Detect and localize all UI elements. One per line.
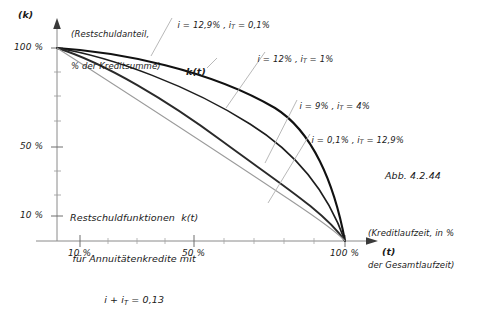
note-line-3: i + iT = 0,13 [70,293,198,308]
note-line-1: Restschuldfunktionen k(t) [70,211,198,225]
leader-line-curve-label [207,58,217,68]
series-3-label-i: i = 0,1% [312,135,349,145]
series-2-label-i: i = 9% [300,101,329,111]
series-3-label-it-val: = 12,9% [364,135,404,145]
y-tick-label-50: 50 % [20,141,43,152]
note-line-3-prefix: i + i [104,294,124,305]
note-line-2: für Annuitätenkredite mit [70,252,198,266]
series-0-label-i: i = 12,9% [178,20,221,30]
series-1-label-i: i = 12% [258,54,292,64]
series-0-label-it-val: = 0,1% [235,20,270,30]
y-tick-label-100: 100 % [14,42,43,53]
series-2-separator: , [329,101,337,111]
x-axis-title-line1: (Kreditlaufzeit, in % [368,228,454,239]
note-block: Restschuldfunktionen k(t) für Annuitäten… [70,183,198,309]
series-annotation-1: i = 12% , iT = 1% [252,43,333,65]
x-tick-label-100: 100 % [330,248,359,259]
curve-label-kt: k(t) [186,66,206,78]
note-line-3-suffix: = 0,13 [128,294,164,305]
series-1-separator: , [292,54,300,64]
x-axis-title: (Kreditlaufzeit, in % der Gesamtlaufzeit… [368,207,454,281]
series-2-label-it-val: = 4% [343,101,370,111]
x-axis-title-line2: der Gesamtlaufzeit) [368,260,454,271]
y-axis-symbol: (k) [18,9,33,21]
y-axis-title: (Restschuldanteil, % der Kreditsumme) [71,8,161,82]
series-annotation-3: i = 0,1% , iT = 12,9% [306,124,404,146]
y-axis-arrow-icon [53,18,61,29]
series-1-label-it-val: = 1% [307,54,334,64]
leader-line-i-9 [265,100,297,163]
figure-caption: Abb. 4.2.44 [385,170,441,182]
y-axis-title-line1: (Restschuldanteil, [71,29,161,40]
series-annotation-2: i = 9% , iT = 4% [294,90,370,112]
series-0-separator: , [220,20,228,30]
y-tick-label-10: 10 % [20,210,43,221]
series-annotation-0: i = 12,9% , iT = 0,1% [172,9,270,31]
y-axis-title-line2: % der Kreditsumme) [71,61,161,72]
